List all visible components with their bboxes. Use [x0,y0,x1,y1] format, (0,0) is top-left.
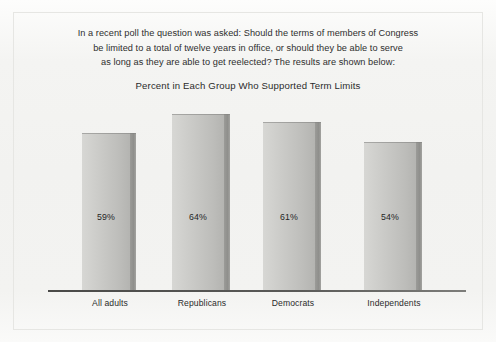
x-axis-label-democrats: Democrats [255,298,331,308]
bar-top-edge [172,114,230,115]
bar-value-label: 59% [82,212,130,222]
bar-republicans: 64% [172,114,230,291]
bar-independents: 54% [364,142,422,291]
bar-value-label: 54% [364,212,416,222]
bar-all-adults: 59% [82,133,136,291]
bar-top-edge [263,122,321,123]
bar-face [172,114,224,291]
bar-side-shadow [130,133,136,291]
bar-face [263,122,315,291]
chart-figure: In a recent poll the question was asked:… [0,0,496,342]
x-axis-line [48,290,466,292]
bar-value-label: 64% [172,212,224,222]
plot-area: 59% 64% 61% 54% All adults Republicans D… [0,0,496,342]
bar-side-shadow [416,142,422,291]
bar-value-label: 61% [263,212,315,222]
bar-top-edge [82,133,136,134]
x-axis-label-republicans: Republicans [163,298,241,308]
bar-side-shadow [315,122,321,291]
x-axis-label-all-adults: All adults [75,298,145,308]
x-axis-label-independents: Independents [352,298,436,308]
bar-side-shadow [224,114,230,291]
bar-democrats: 61% [263,122,321,291]
bar-top-edge [364,142,422,143]
